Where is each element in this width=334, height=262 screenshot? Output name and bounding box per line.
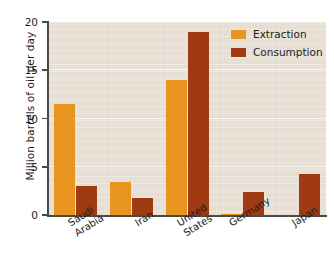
y-axis-line: [47, 21, 49, 216]
legend-swatch-consumption: [231, 48, 246, 57]
bar-consumption: [188, 32, 209, 215]
y-tick-mark: [42, 69, 47, 71]
y-tick-label: 0: [0, 209, 38, 221]
legend-label: Consumption: [253, 46, 323, 58]
bar-chart-figure: Million barrels of oil per day 05101520 …: [0, 0, 334, 262]
legend-item: Consumption: [231, 46, 323, 58]
y-tick-label: 15: [0, 64, 38, 76]
legend-swatch-extraction: [231, 30, 246, 39]
bar-extraction: [110, 182, 131, 215]
legend-label: Extraction: [253, 28, 307, 40]
y-tick-label: 10: [0, 113, 38, 125]
y-tick-label: 20: [0, 16, 38, 28]
y-tick-mark: [42, 21, 47, 23]
bar-extraction: [54, 104, 75, 215]
y-axis-title: Million barrels of oil per day: [24, 6, 36, 206]
y-tick-mark: [42, 214, 47, 216]
bar-extraction: [166, 80, 187, 215]
y-tick-label: 5: [0, 161, 38, 173]
legend-item: Extraction: [231, 28, 323, 40]
y-tick-mark: [42, 118, 47, 120]
y-tick-mark: [42, 166, 47, 168]
legend: ExtractionConsumption: [231, 28, 323, 64]
